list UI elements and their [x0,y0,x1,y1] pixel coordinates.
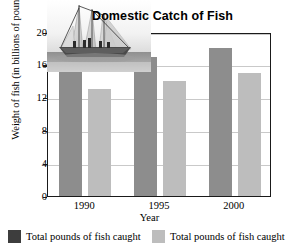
bar-2000-series2 [238,73,261,196]
legend-item-1: Total pounds of fish caught [8,226,141,246]
chart-title: Domestic Catch of Fish [92,9,272,23]
legend-swatch-2 [152,230,165,243]
bar-1990-series2 [88,89,111,196]
bar-1995-series2 [163,81,186,196]
bar-2000-series1 [209,48,232,196]
chart-legend: Total pounds of fish caughtTotal pounds … [0,226,299,248]
x-tick-label-1995: 1995 [129,200,189,211]
x-tick-label-1990: 1990 [54,200,114,211]
legend-label-2: Total pounds of fish caught [170,231,285,242]
legend-label-1: Total pounds of fish caught [26,231,141,242]
x-tick-label-2000: 2000 [204,200,264,211]
x-axis-title: Year [0,212,299,223]
bar-chart-figure: Weight of fish (in billions of pounds) 0… [0,0,299,248]
bar-1990-series1 [59,65,82,196]
bar-1995-series1 [134,57,157,196]
legend-swatch-1 [8,230,21,243]
legend-item-2: Total pounds of fish caught [152,226,285,246]
y-axis-title: Weight of fish (in billions of pounds) [10,0,21,149]
